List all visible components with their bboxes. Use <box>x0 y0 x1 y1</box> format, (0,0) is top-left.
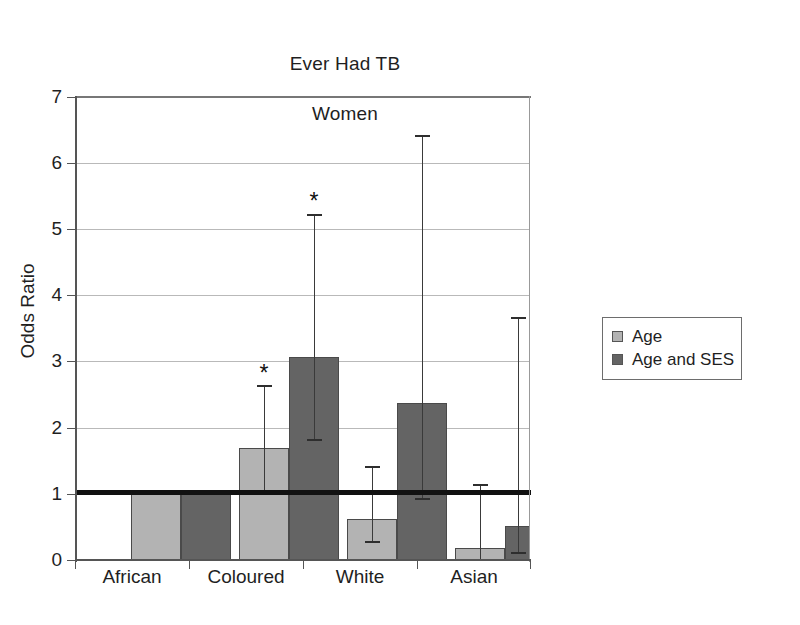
errorbar-white-age-and-ses <box>422 135 423 499</box>
errorbar-cap-upper-asian-age-and-ses <box>511 317 526 319</box>
y-tick-label-4: 4 <box>36 284 62 306</box>
y-tick-label-1: 1 <box>36 483 62 505</box>
chart-title: Ever Had TB Women <box>145 26 545 151</box>
y-tick-label-6: 6 <box>36 152 62 174</box>
errorbar-cap-lower-coloured-age-and-ses <box>307 439 322 441</box>
errorbar-cap-lower-white-age-and-ses <box>415 498 430 500</box>
y-tick-label-0: 0 <box>36 549 62 571</box>
errorbar-cap-upper-coloured-age-and-ses <box>307 214 322 216</box>
gridline-4 <box>75 295 530 296</box>
y-tick-label-2: 2 <box>36 417 62 439</box>
significance-star-coloured-age-and-ses: * <box>303 190 325 213</box>
bar-african-age <box>131 494 181 560</box>
errorbar-asian-age-and-ses <box>518 317 519 553</box>
errorbar-cap-upper-white-age <box>365 466 380 468</box>
gridline-6 <box>75 163 530 164</box>
x-axis-label-asian: Asian <box>409 566 539 588</box>
x-axis-label-white: White <box>295 566 425 588</box>
chart-title-line2: Women <box>145 101 545 126</box>
legend-item-age: Age <box>612 325 732 348</box>
legend-item-age-and-ses: Age and SES <box>612 348 732 371</box>
y-tick-label-3: 3 <box>36 350 62 372</box>
plot-top-border <box>75 96 531 98</box>
x-axis-label-coloured: Coloured <box>181 566 311 588</box>
y-axis-line <box>75 96 77 562</box>
errorbar-cap-lower-white-age <box>365 541 380 543</box>
significance-star-coloured-age: * <box>253 362 275 385</box>
errorbar-coloured-age <box>264 385 265 491</box>
errorbar-cap-upper-asian-age <box>473 484 488 486</box>
chart-legend: Age Age and SES <box>602 317 742 380</box>
plot-right-border <box>529 96 530 562</box>
gridline-5 <box>75 229 530 230</box>
y-tick-label-5: 5 <box>36 218 62 240</box>
reference-line-or-1 <box>75 490 531 495</box>
legend-swatch-age-and-ses-icon <box>612 354 623 365</box>
errorbar-cap-upper-white-age-and-ses <box>415 135 430 137</box>
y-tick-label-7: 7 <box>36 86 62 108</box>
errorbar-coloured-age-and-ses <box>314 214 315 440</box>
errorbar-asian-age <box>480 484 481 560</box>
errorbar-cap-lower-asian-age-and-ses <box>511 552 526 554</box>
x-axis-label-african: African <box>67 566 197 588</box>
legend-swatch-age-icon <box>612 331 623 342</box>
bar-african-age-and-ses <box>181 494 231 560</box>
legend-label-age: Age <box>632 327 662 347</box>
y-axis-label: Odds Ratio <box>17 221 39 401</box>
errorbar-white-age <box>372 466 373 542</box>
chart-figure: Ever Had TB Women Odds Ratio 7 6 5 4 3 2… <box>0 0 800 625</box>
legend-label-age-and-ses: Age and SES <box>632 350 734 370</box>
chart-title-line1: Ever Had TB <box>290 53 401 74</box>
